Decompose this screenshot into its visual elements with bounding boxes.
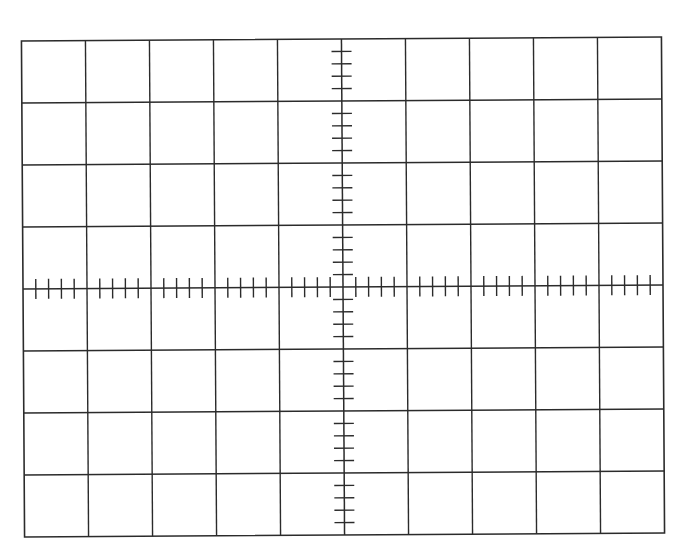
- graticule-group: [21, 37, 664, 537]
- horizontal-grid-lines: [22, 99, 664, 475]
- oscilloscope-graticule: [0, 0, 693, 552]
